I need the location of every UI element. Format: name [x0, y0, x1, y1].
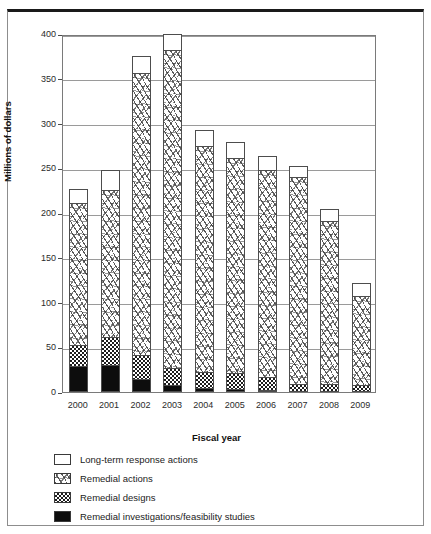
x-axis-title: Fiscal year: [8, 432, 425, 443]
bar-segment-2003-remedial-designs[interactable]: [163, 368, 182, 385]
bar-segment-2006-remedial-actions[interactable]: [258, 170, 277, 377]
bar-group-2004[interactable]: [195, 34, 214, 392]
bar-segment-2004-remedial-actions[interactable]: [195, 146, 214, 372]
bar-segment-2006-remedial-designs[interactable]: [258, 377, 277, 390]
bar-segment-2008-remedial-designs[interactable]: [320, 384, 339, 391]
y-tick-label-0: 0: [12, 388, 56, 397]
bar-segment-2002-remedial-designs[interactable]: [132, 355, 151, 379]
legend-item-solid-black[interactable]: Remedial investigations/feasibility stud…: [54, 507, 404, 526]
bar-segment-2005-remedial-designs[interactable]: [226, 373, 245, 389]
bar-segment-2003-long-term-response-actions[interactable]: [163, 34, 182, 50]
bar-group-2003[interactable]: [163, 34, 182, 392]
bar-segment-2003-remedial-investigations-feasibility-studies[interactable]: [163, 385, 182, 392]
bar-group-2009[interactable]: [352, 34, 371, 392]
chart-figure-frame: Millions of dollars 05010015020025030035…: [7, 9, 424, 526]
y-tick-label-150: 150: [12, 254, 56, 263]
legend-item-label: Remedial actions: [80, 473, 153, 484]
legend-item-blank-white[interactable]: Long-term response actions: [54, 450, 404, 469]
bar-segment-2007-remedial-designs[interactable]: [289, 384, 308, 391]
bar-segment-2006-remedial-investigations-feasibility-studies[interactable]: [258, 390, 277, 392]
bar-segment-2006-long-term-response-actions[interactable]: [258, 156, 277, 170]
bar-segment-2001-remedial-actions[interactable]: [101, 190, 120, 338]
legend-item-checkerboard[interactable]: Remedial designs: [54, 488, 404, 507]
bar-segment-2000-remedial-actions[interactable]: [69, 203, 88, 344]
bar-segment-2000-remedial-investigations-feasibility-studies[interactable]: [69, 366, 88, 392]
solid-black-swatch: [54, 511, 71, 522]
bar-segment-2004-long-term-response-actions[interactable]: [195, 130, 214, 146]
bar-segment-2004-remedial-investigations-feasibility-studies[interactable]: [195, 388, 214, 392]
y-tick-label-350: 350: [12, 75, 56, 84]
bar-group-2000[interactable]: [69, 34, 88, 392]
bar-group-2007[interactable]: [289, 34, 308, 392]
blank-white-swatch: [54, 454, 71, 465]
legend-item-dashed-hatch[interactable]: Remedial actions: [54, 469, 404, 488]
bar-segment-2005-long-term-response-actions[interactable]: [226, 142, 245, 158]
dashed-hatch-swatch: [54, 473, 71, 484]
bar-group-2005[interactable]: [226, 34, 245, 392]
bar-segment-2008-remedial-actions[interactable]: [320, 221, 339, 384]
chart-legend: Long-term response actionsRemedial actio…: [54, 450, 404, 526]
y-tick-label-250: 250: [12, 164, 56, 173]
bar-segment-2005-remedial-actions[interactable]: [226, 158, 245, 373]
bar-group-2006[interactable]: [258, 34, 277, 392]
bar-segment-2001-remedial-designs[interactable]: [101, 337, 120, 365]
bar-segment-2008-long-term-response-actions[interactable]: [320, 209, 339, 221]
bar-segment-2007-long-term-response-actions[interactable]: [289, 166, 308, 177]
bar-segment-2009-remedial-designs[interactable]: [352, 385, 371, 391]
bar-segment-2002-remedial-actions[interactable]: [132, 73, 151, 355]
plot-area: [62, 35, 376, 393]
bar-segment-2002-long-term-response-actions[interactable]: [132, 56, 151, 73]
y-tick-label-400: 400: [12, 30, 56, 39]
bar-segment-2001-long-term-response-actions[interactable]: [101, 170, 120, 190]
y-tick-label-50: 50: [12, 343, 56, 352]
legend-item-label: Long-term response actions: [80, 454, 198, 465]
bar-group-2001[interactable]: [101, 34, 120, 392]
bar-segment-2001-remedial-investigations-feasibility-studies[interactable]: [101, 365, 120, 392]
bar-segment-2000-long-term-response-actions[interactable]: [69, 189, 88, 203]
checkerboard-swatch: [54, 492, 71, 503]
bar-segment-2000-remedial-designs[interactable]: [69, 345, 88, 366]
bar-group-2002[interactable]: [132, 34, 151, 392]
x-tick-label-2009: 2009: [340, 400, 380, 410]
y-tick-label-300: 300: [12, 120, 56, 129]
bar-segment-2002-remedial-investigations-feasibility-studies[interactable]: [132, 379, 151, 392]
y-tick-label-100: 100: [12, 299, 56, 308]
legend-item-label: Remedial designs: [80, 492, 156, 503]
bar-segment-2004-remedial-designs[interactable]: [195, 372, 214, 388]
bar-segment-2009-long-term-response-actions[interactable]: [352, 283, 371, 296]
bar-segment-2009-remedial-actions[interactable]: [352, 296, 371, 385]
bar-segment-2005-remedial-investigations-feasibility-studies[interactable]: [226, 389, 245, 392]
y-tick-label-200: 200: [12, 209, 56, 218]
bar-group-2008[interactable]: [320, 34, 339, 392]
legend-item-label: Remedial investigations/feasibility stud…: [80, 511, 255, 522]
bar-segment-2003-remedial-actions[interactable]: [163, 50, 182, 368]
bar-segment-2007-remedial-actions[interactable]: [289, 177, 308, 384]
